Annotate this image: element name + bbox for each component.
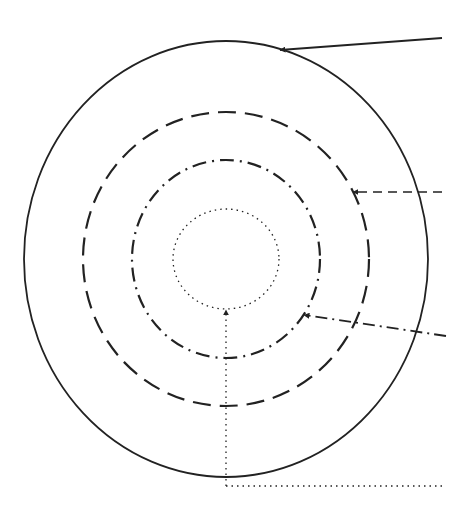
dash-dot-arrow — [304, 315, 446, 336]
outer-solid-circle — [24, 41, 428, 477]
circles-group — [24, 41, 428, 477]
concentric-circles-diagram — [0, 0, 466, 506]
solid-arrow — [280, 38, 442, 50]
dotted-circle — [173, 209, 279, 309]
dashed-circle — [83, 112, 369, 406]
arrows-group — [226, 38, 446, 486]
dash-dot-circle — [132, 160, 320, 358]
